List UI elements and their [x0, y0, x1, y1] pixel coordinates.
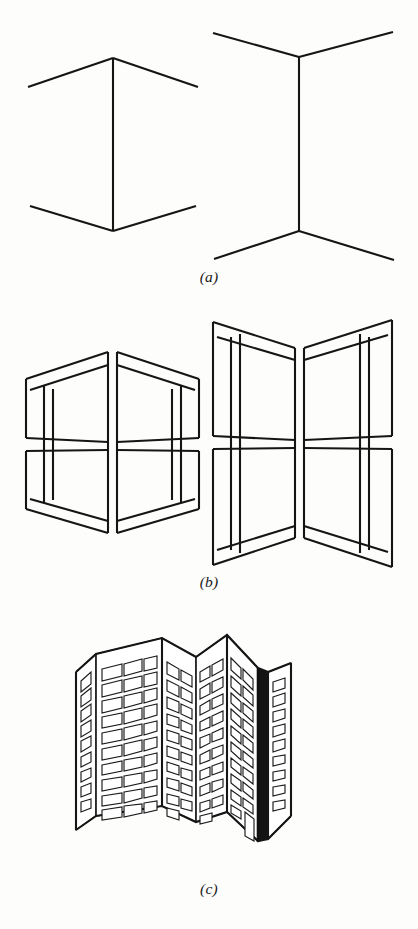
concave-corner-windows — [213, 320, 392, 567]
ground-window-left-3 — [144, 801, 157, 813]
convex-corner-windows — [26, 352, 199, 533]
panel-b-drawing — [0, 310, 418, 610]
caption-a: (a) — [0, 268, 418, 286]
caption-b: (b) — [0, 573, 418, 591]
panel-b — [0, 310, 418, 610]
windows-right-end-face — [273, 678, 285, 811]
zigzag-apartment-building — [76, 635, 291, 842]
panel-a-drawing — [0, 0, 418, 310]
figure-page: (a) — [0, 0, 418, 929]
convex-corner-lines — [28, 58, 198, 231]
caption-c: (c) — [0, 880, 418, 898]
panel-a — [0, 0, 418, 310]
concave-corner-lines — [213, 32, 394, 260]
ground-window-left-2 — [124, 804, 142, 817]
